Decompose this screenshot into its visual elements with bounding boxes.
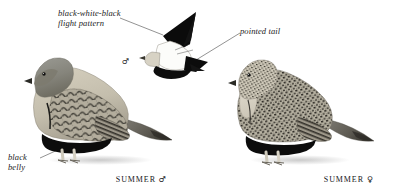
male-eye-highlight <box>43 73 44 74</box>
caption-male-season: SUMMER <box>116 175 156 184</box>
caption-male-symbol: ♂ <box>159 175 166 184</box>
illustration-plate <box>0 0 403 190</box>
caption-summer-female: SUMMER ♀ <box>318 166 373 184</box>
annotation-black-belly: black belly <box>8 152 27 172</box>
flight-male-sex-symbol: ♂ <box>122 57 129 66</box>
female-eye-highlight <box>248 74 249 75</box>
caption-female-season: SUMMER <box>324 175 364 184</box>
annotation-flight-pattern: black-white-black flight pattern <box>58 8 121 28</box>
caption-female-symbol: ♀ <box>367 175 373 184</box>
male-eye <box>42 72 45 75</box>
caption-summer-male: SUMMER ♂ <box>110 166 166 184</box>
female-eye <box>247 73 250 76</box>
annotation-pointed-tail: pointed tail <box>240 26 280 36</box>
